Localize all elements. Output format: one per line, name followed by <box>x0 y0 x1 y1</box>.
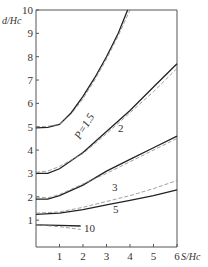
y-axis-label: d/Hc <box>2 15 22 26</box>
curve <box>36 190 177 215</box>
x-tick-label: 4 <box>127 250 133 262</box>
chart: 12345612345678910 d/HcS/HcP=1.523510 <box>0 0 208 267</box>
x-tick-label: 1 <box>57 250 63 262</box>
curve <box>36 10 130 127</box>
y-tick-label: 4 <box>28 144 34 156</box>
curve-label: P=1.5 <box>71 111 97 142</box>
curve <box>36 64 177 174</box>
x-tick-label: 5 <box>151 250 157 262</box>
x-tick-label: 2 <box>80 250 86 262</box>
curve <box>36 138 177 198</box>
ticks: 12345612345678910 <box>22 4 180 262</box>
curve <box>36 10 128 128</box>
curves <box>36 10 177 229</box>
curve-label: 2 <box>118 122 124 134</box>
y-tick-label: 2 <box>28 191 34 203</box>
axes <box>36 10 177 247</box>
curve-label: 3 <box>112 181 118 193</box>
y-tick-label: 8 <box>28 51 34 63</box>
curve-label: 5 <box>113 203 119 215</box>
x-tick-label: 6 <box>174 250 180 262</box>
x-axis-label: S/Hc <box>181 251 201 262</box>
y-tick-label: 7 <box>28 74 34 86</box>
curve-label: 10 <box>84 222 96 234</box>
y-tick-label: 3 <box>28 167 34 179</box>
y-tick-label: 10 <box>22 4 34 16</box>
y-tick-label: 1 <box>28 214 34 226</box>
y-tick-label: 6 <box>28 97 34 109</box>
x-tick-label: 3 <box>104 250 110 262</box>
y-tick-label: 5 <box>28 121 34 133</box>
y-tick-label: 9 <box>28 27 34 39</box>
